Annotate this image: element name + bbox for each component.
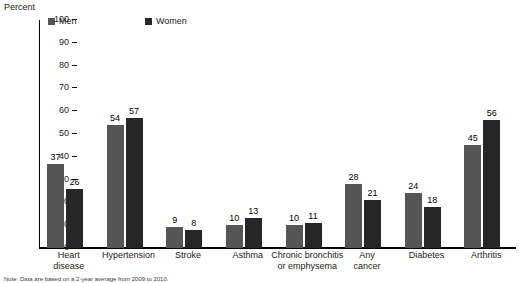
bar-value-label: 21: [368, 188, 378, 199]
category-label-line: disease: [27, 261, 111, 272]
bar-men: 28: [345, 184, 362, 248]
bar-value-label: 11: [308, 211, 317, 222]
bar-value-label: 57: [129, 106, 139, 117]
bar-group: 2418: [397, 20, 457, 248]
bar-value-label: 9: [172, 215, 177, 226]
bar-value-label: 45: [468, 133, 478, 144]
bar-men: 10: [286, 225, 303, 248]
bar-chart: Percent Men Women 0102030405060708090100…: [0, 0, 524, 283]
bar-value-label: 18: [427, 195, 437, 206]
category-label-line: cancer: [325, 261, 409, 272]
bar-women: 26: [66, 189, 83, 248]
bar-value-label: 10: [289, 213, 299, 224]
bar-value-label: 54: [110, 113, 120, 124]
bar-value-label: 10: [229, 213, 239, 224]
bar-men: 9: [166, 227, 183, 248]
bar-women: 57: [126, 118, 143, 248]
category-label: Arthritis: [444, 250, 524, 261]
bar-value-label: 28: [349, 172, 359, 183]
bar-value-label: 26: [69, 177, 79, 188]
chart-footnote: Note: Data are based on a 2-year average…: [4, 275, 168, 283]
bar-men: 45: [464, 145, 481, 248]
bar-group: 3726: [39, 20, 99, 248]
bar-women: 18: [424, 207, 441, 248]
bar-women: 8: [185, 230, 202, 248]
bar-group: 1013: [218, 20, 278, 248]
bar-women: 21: [364, 200, 381, 248]
x-axis-category-labels: HeartdiseaseHypertensionStrokeAsthmaChro…: [39, 250, 516, 274]
bar-value-label: 13: [248, 206, 258, 217]
bar-group: 5457: [99, 20, 159, 248]
bar-women: 11: [305, 223, 322, 248]
bars-layer: 372654579810131011282124184556: [39, 20, 516, 248]
bar-value-label: 8: [191, 218, 196, 229]
bar-men: 54: [107, 125, 124, 248]
category-label-line: Arthritis: [444, 250, 524, 261]
bar-value-label: 24: [408, 181, 418, 192]
bar-women: 13: [245, 218, 262, 248]
bar-women: 56: [483, 120, 500, 248]
bar-value-label: 56: [487, 108, 497, 119]
bar-men: 24: [405, 193, 422, 248]
bar-men: 10: [226, 225, 243, 248]
bar-group: 4556: [456, 20, 516, 248]
y-axis-title: Percent: [4, 2, 35, 13]
bar-group: 1011: [278, 20, 338, 248]
bar-men: 37: [47, 164, 64, 248]
bar-group: 98: [158, 20, 218, 248]
bar-value-label: 37: [50, 152, 60, 163]
bar-group: 2821: [337, 20, 397, 248]
